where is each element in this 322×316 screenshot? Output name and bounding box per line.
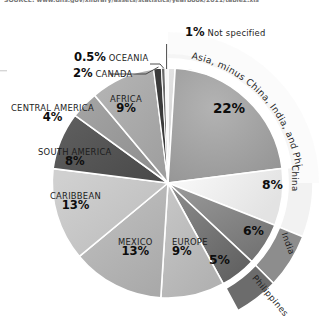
label-india-pct: 6% — [243, 222, 264, 238]
leader-oceania — [150, 64, 164, 68]
edge-artifact — [0, 70, 7, 71]
label-africa: AFRICA 9% — [110, 95, 142, 114]
label-not-specified: 1% Not specified — [185, 27, 266, 39]
label-china-name: China — [290, 165, 300, 192]
label-south-america: SOUTH AMERICA 8% — [38, 148, 111, 167]
label-philippines-pct: 5% — [209, 251, 230, 267]
label-mexico: MEXICO 13% — [118, 238, 153, 257]
label-oceania: 0.5% OCEANIA — [74, 52, 148, 64]
label-canada: 2% CANADA — [73, 68, 133, 80]
label-caribbean: CARIBBEAN 13% — [50, 192, 101, 211]
label-europe: EUROPE 9% — [172, 238, 208, 257]
chart-figure: SOURCE: www.dhs.gov/xlibrary/assets/stat… — [0, 0, 322, 316]
label-asia-pct: 22% — [213, 100, 245, 116]
label-central-america: CENTRAL AMERICA 4% — [11, 104, 94, 123]
label-china-pct: 8% — [262, 176, 283, 192]
